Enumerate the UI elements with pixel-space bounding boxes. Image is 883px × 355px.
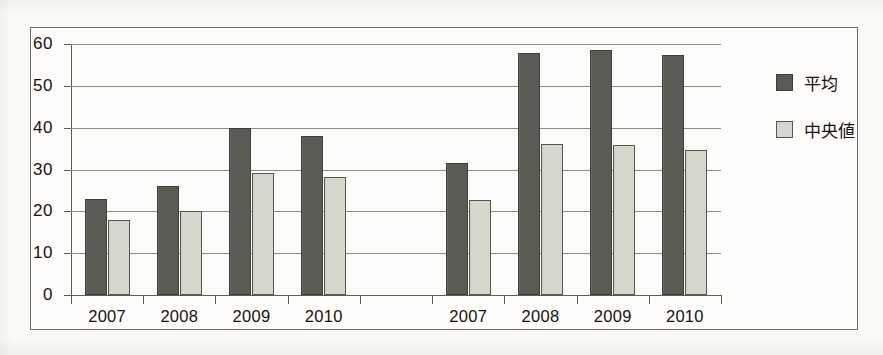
y-axis-tick-label: 20 <box>33 201 53 221</box>
y-axis-tick <box>64 253 71 254</box>
bar <box>446 163 468 295</box>
legend-item: 平均 <box>776 70 881 95</box>
x-axis-tick-label: 2009 <box>594 307 632 326</box>
legend-label: 平均 <box>804 70 838 95</box>
y-axis-tick <box>64 44 71 45</box>
x-axis-tick <box>649 295 650 304</box>
bar <box>685 150 707 295</box>
chart-legend: 平均中央値 <box>776 70 881 164</box>
bar <box>590 50 612 295</box>
y-axis-tick <box>64 211 71 212</box>
bar <box>85 199 107 295</box>
x-axis-tick <box>143 295 144 304</box>
bar <box>518 53 540 295</box>
x-axis-tick-label: 2009 <box>233 307 271 326</box>
y-axis-tick <box>64 128 71 129</box>
x-axis-tick <box>721 295 722 304</box>
x-axis-tick-label: 2008 <box>160 307 198 326</box>
x-axis-tick <box>71 295 72 304</box>
chart-frame: 0102030405060 20072008200920102007200820… <box>30 27 858 330</box>
x-axis-tick-label: 2010 <box>305 307 343 326</box>
bar <box>541 144 563 295</box>
bar <box>180 211 202 295</box>
y-axis-tick-label: 50 <box>33 76 53 96</box>
x-axis-tick <box>577 295 578 304</box>
legend-label: 中央値 <box>804 117 855 142</box>
x-axis-tick-label: 2008 <box>521 307 559 326</box>
x-axis-tick <box>360 295 361 304</box>
gridline <box>71 86 721 87</box>
y-axis-tick-label: 60 <box>33 34 53 54</box>
gridline <box>71 128 721 129</box>
bar <box>108 220 130 295</box>
y-axis-tick-label: 30 <box>33 160 53 180</box>
gridline <box>71 295 721 296</box>
legend-item: 中央値 <box>776 117 881 142</box>
plot-area: 0102030405060 20072008200920102007200820… <box>71 44 721 295</box>
x-axis-tick <box>215 295 216 304</box>
bar <box>324 177 346 295</box>
bar <box>613 145 635 295</box>
bar <box>301 136 323 295</box>
x-axis-tick <box>288 295 289 304</box>
y-axis-tick <box>64 295 71 296</box>
bar <box>252 173 274 295</box>
y-axis-tick-label: 40 <box>33 118 53 138</box>
legend-swatch-mean <box>776 74 793 91</box>
x-axis-tick-label: 2007 <box>88 307 126 326</box>
x-axis-tick <box>432 295 433 304</box>
legend-swatch-median <box>776 121 793 138</box>
bar <box>662 55 684 295</box>
x-axis-tick <box>504 295 505 304</box>
x-axis-tick-label: 2010 <box>666 307 704 326</box>
y-axis-tick-label: 0 <box>43 285 53 305</box>
bar <box>229 128 251 295</box>
gridline <box>71 44 721 45</box>
y-axis-tick <box>64 86 71 87</box>
y-axis-tick-label: 10 <box>33 243 53 263</box>
bar <box>469 200 491 295</box>
bar <box>157 186 179 295</box>
x-axis-tick-label: 2007 <box>449 307 487 326</box>
y-axis-tick <box>64 170 71 171</box>
